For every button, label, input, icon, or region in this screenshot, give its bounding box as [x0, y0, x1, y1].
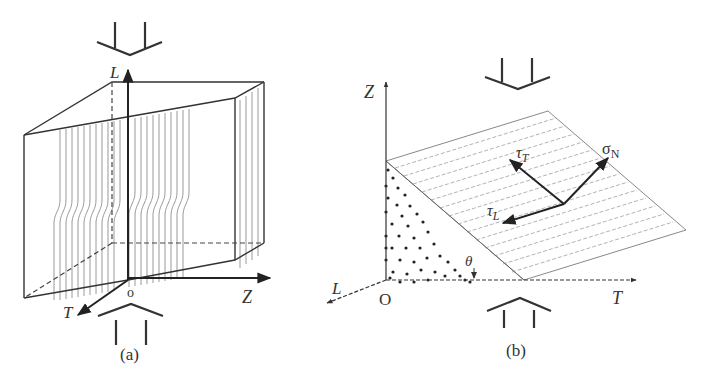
- axis-label-l: L: [109, 63, 119, 82]
- axis-label-t: T: [63, 303, 74, 322]
- compression-arrow-bottom-b-icon: [487, 298, 551, 328]
- compression-arrow-bottom-icon: [98, 304, 163, 345]
- normal-stress-label: σN: [602, 140, 620, 161]
- panel-b: Z L T O θ τT σN τL (b): [327, 58, 686, 360]
- angle-theta-marker: θ: [465, 253, 477, 279]
- axis-label-z-b: Z: [364, 82, 375, 102]
- fiber-lines: [54, 88, 258, 300]
- origin-label-b: O: [379, 290, 391, 309]
- panel-a: L Z T o (a): [24, 22, 270, 364]
- compression-arrow-top-icon: [97, 22, 162, 55]
- origin-label-a: o: [127, 285, 134, 300]
- figure: L Z T o (a): [0, 0, 710, 381]
- angle-label: θ: [465, 253, 473, 269]
- inclined-plane: [386, 111, 686, 280]
- axes-a: [78, 70, 270, 315]
- compression-arrow-top-b-icon: [485, 58, 550, 89]
- axis-label-t-b: T: [612, 288, 624, 308]
- caption-b: (b): [506, 341, 526, 360]
- axis-label-z: Z: [242, 287, 253, 307]
- axis-label-l-b: L: [331, 279, 341, 298]
- caption-a: (a): [120, 345, 139, 364]
